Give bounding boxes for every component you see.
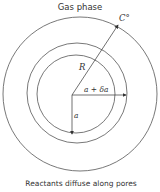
pellet-diagram: Gas phase C° R a + δa a Reactants diffus… [0,0,160,192]
middle-circle [27,43,127,143]
caption: Reactants diffuse along pores [25,179,136,188]
gas-phase-label: Gas phase [58,2,103,12]
surface-concentration-label: C° [119,13,130,23]
outer-radius-label: R [78,62,86,72]
inner-circle [37,55,115,133]
shell-radius-label: a + δa [84,85,109,94]
inner-radius-label: a [74,111,78,120]
outer-circle [3,17,157,171]
